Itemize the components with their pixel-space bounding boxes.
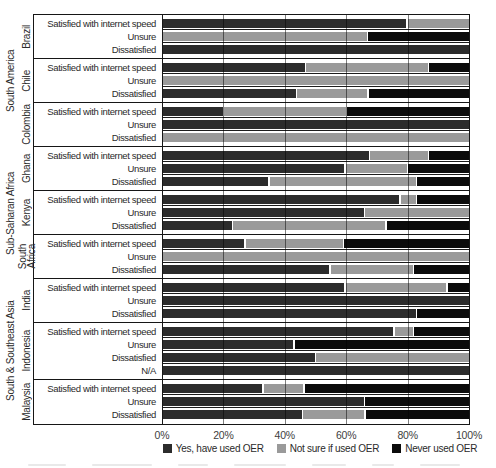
row-label: Satisfied with internet speed	[34, 61, 162, 74]
chart-row: Dissatisfied	[34, 307, 469, 320]
chart-row: Satisfied with internet speed	[34, 149, 469, 162]
stacked-bar	[162, 107, 469, 116]
bar-track	[162, 105, 469, 118]
stacked-bar	[162, 177, 469, 186]
country-group: BrazilSatisfied with internet speedUnsur…	[34, 15, 469, 59]
bar-segment-never	[417, 309, 469, 318]
bar-segment-not-sure	[224, 107, 346, 116]
legend-label: Never used OER	[405, 443, 477, 454]
country-group: KenyaSatisfied with internet speedUnsure…	[34, 191, 469, 235]
bar-segment-yes	[162, 410, 302, 419]
bar-track	[162, 17, 469, 30]
plot-frame: South AmericaBrazilSatisfied with intern…	[33, 14, 470, 425]
row-label: N/A	[34, 364, 162, 377]
row-label: Satisfied with internet speed	[34, 382, 162, 395]
region-label: Sub-Saharan Africa	[3, 147, 17, 279]
bar-segment-yes	[162, 19, 406, 28]
country-label: Indonesia	[20, 323, 33, 379]
row-label: Dissatisfied	[34, 43, 162, 56]
country-label: Chile	[20, 59, 33, 102]
country-label: SouthAfrica	[20, 235, 33, 278]
bar-segment-not-sure	[316, 353, 469, 362]
bar-segment-not-sure	[233, 221, 385, 230]
stacked-bar	[162, 239, 469, 248]
stacked-bar	[162, 120, 469, 129]
chart-row: Dissatisfied	[34, 43, 469, 56]
region-label: South & Southeast Asia	[3, 279, 17, 423]
country-group: SouthAfricaSatisfied with internet speed…	[34, 235, 469, 279]
bar-segment-yes	[162, 195, 399, 204]
bar-segment-not-sure	[395, 327, 413, 336]
row-label: Dissatisfied	[34, 307, 162, 320]
row-label: Unsure	[34, 118, 162, 131]
chart-row: Dissatisfied	[34, 87, 469, 100]
bar-segment-not-sure	[408, 19, 469, 28]
row-label: Dissatisfied	[34, 408, 162, 421]
row-label: Unsure	[34, 162, 162, 175]
country-label: Kenya	[20, 191, 33, 234]
bar-track	[162, 87, 469, 100]
stacked-bar	[162, 76, 469, 85]
bar-track	[162, 175, 469, 188]
bar-track	[162, 131, 469, 144]
stacked-bar	[162, 151, 469, 160]
bar-segment-never	[448, 283, 469, 292]
bar-track	[162, 43, 469, 56]
row-label: Satisfied with internet speed	[34, 193, 162, 206]
bar-track	[162, 338, 469, 351]
country-label: Brazil	[20, 15, 33, 58]
chart-row: Unsure	[34, 250, 469, 263]
row-label: Satisfied with internet speed	[34, 105, 162, 118]
bar-segment-never	[344, 239, 469, 248]
row-label: Unsure	[34, 74, 162, 87]
bar-segment-never	[369, 89, 469, 98]
bar-segment-never	[429, 63, 469, 72]
country-group: ColombiaSatisfied with internet speedUns…	[34, 103, 469, 147]
bar-segment-never	[305, 384, 469, 393]
row-label: Satisfied with internet speed	[34, 237, 162, 250]
bar-segment-never	[417, 177, 469, 186]
x-axis: 0%20%40%60%80%100%	[0, 429, 496, 443]
chart-row: Satisfied with internet speed	[34, 17, 469, 30]
country-label-line: Africa	[27, 244, 36, 268]
bar-track	[162, 408, 469, 421]
row-label: Unsure	[34, 206, 162, 219]
stacked-bar	[162, 283, 469, 292]
bar-segment-not-sure	[346, 283, 446, 292]
row-label: Unsure	[34, 395, 162, 408]
stacked-bar	[162, 19, 469, 28]
country-group: ChileSatisfied with internet speedUnsure…	[34, 59, 469, 103]
stacked-bar	[162, 164, 469, 173]
row-label: Satisfied with internet speed	[34, 17, 162, 30]
chart-row: Unsure	[34, 294, 469, 307]
stacked-bar	[162, 45, 469, 54]
bar-track	[162, 30, 469, 43]
bar-segment-never	[365, 397, 469, 406]
bar-track	[162, 250, 469, 263]
x-tick-label: 80%	[386, 429, 430, 441]
x-tick-label: 0%	[140, 429, 184, 441]
chart-row: Dissatisfied	[34, 408, 469, 421]
bar-segment-yes	[162, 120, 469, 129]
row-label: Dissatisfied	[34, 131, 162, 144]
row-label: Dissatisfied	[34, 219, 162, 232]
legend-swatch-yes	[163, 444, 172, 453]
bar-segment-never	[295, 340, 469, 349]
bar-segment-yes	[162, 239, 244, 248]
bar-segment-yes	[162, 177, 268, 186]
row-label: Unsure	[34, 338, 162, 351]
stacked-bar	[162, 353, 469, 362]
region-label: South America	[3, 15, 17, 147]
chart-row: Satisfied with internet speed	[34, 382, 469, 395]
row-label: Satisfied with internet speed	[34, 281, 162, 294]
bar-segment-yes	[162, 384, 262, 393]
bar-segment-not-sure	[306, 63, 428, 72]
row-label: Unsure	[34, 294, 162, 307]
chart-row: Dissatisfied	[34, 351, 469, 364]
country-group: IndiaSatisfied with internet speedUnsure…	[34, 279, 469, 323]
bar-track	[162, 325, 469, 338]
bar-track	[162, 162, 469, 175]
country-label: Ghana	[20, 147, 33, 190]
bar-segment-not-sure	[162, 252, 469, 261]
stacked-bar	[162, 89, 469, 98]
